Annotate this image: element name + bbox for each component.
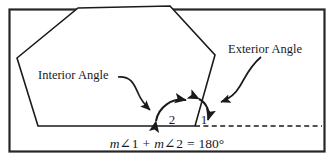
equation-angle-symbol-one: ∠ <box>119 136 130 151</box>
angle-label-one: 1 <box>201 112 208 127</box>
equation-number-one: 1 <box>132 136 139 151</box>
interior-angle-label: Interior Angle <box>38 68 109 82</box>
equation-m-two: m <box>154 136 164 151</box>
equation-plus: + <box>143 136 151 151</box>
equation-equals: = <box>187 136 195 151</box>
equation-angle-symbol-two: ∠ <box>164 136 175 151</box>
equation-m-one: m <box>110 136 120 151</box>
equation-number-two: 2 <box>176 136 183 151</box>
angle-sum-equation: m∠1+m∠2=180° <box>110 136 225 151</box>
exterior-angle-label: Exterior Angle <box>228 42 302 56</box>
equation-result: 180° <box>199 136 225 151</box>
angle-label-two: 2 <box>169 112 176 127</box>
geometry-figure-container: Interior Angle Exterior Angle 2 1 m∠1+m∠… <box>0 0 334 161</box>
geometry-diagram-svg: Interior Angle Exterior Angle 2 1 m∠1+m∠… <box>0 0 334 161</box>
